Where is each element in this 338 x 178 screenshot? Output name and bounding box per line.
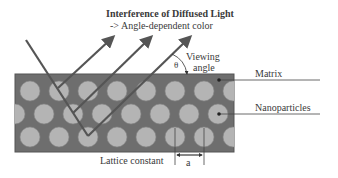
viewing-label-2: angle — [193, 62, 215, 73]
nanoparticles-label: Nanoparticles — [255, 102, 311, 113]
matrix-label: Matrix — [255, 68, 282, 79]
theta-label: θ — [174, 60, 178, 70]
lattice-a-label: a — [186, 157, 191, 168]
diagram-subtitle: -> Angle-dependent color — [110, 20, 213, 31]
viewing-label-1: Viewing — [186, 51, 220, 62]
lattice-constant-label: Lattice constant — [100, 155, 164, 166]
diagram-title: Interference of Diffused Light — [106, 8, 235, 19]
photonic-crystal-diagram: Interference of Diffused Light -> Angle-… — [0, 0, 338, 178]
